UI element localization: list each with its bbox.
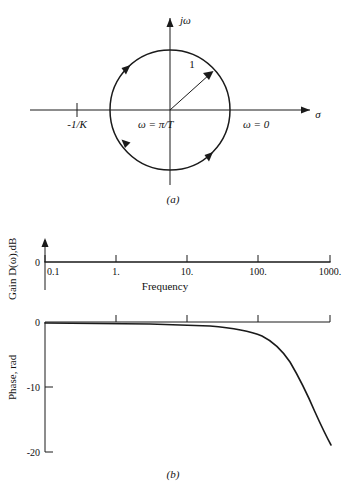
gain-xtick-label-4: 1000.: [319, 266, 342, 277]
gain-ylabel: Gain D(ω),dB: [6, 238, 19, 300]
circle-arrow-lower-right: [205, 152, 214, 162]
caption-b: (b): [167, 468, 180, 481]
phase-plot-group: 0 -10 -20 Phase, rad (b): [6, 315, 331, 481]
radius-label: 1: [189, 58, 195, 70]
phase-curve: [45, 323, 331, 445]
phase-ytick-label-2: -20: [27, 447, 40, 458]
gain-y-axis-arrowhead: [42, 238, 49, 247]
imag-axis-arrowhead: [167, 18, 174, 27]
figure-page: 1 jω σ -1/K ω = π/T ω = 0 (a) 0 0.: [0, 0, 346, 491]
gain-xtick-label-1: 1.: [112, 266, 120, 277]
radius-vector-line: [170, 74, 210, 110]
real-axis-label: σ: [315, 108, 321, 120]
omega-zero-label: ω = 0: [243, 118, 270, 130]
phase-ylabel: Phase, rad: [6, 354, 18, 400]
caption-a: (a): [167, 193, 180, 206]
gain-xtick-label-3: 100.: [249, 266, 267, 277]
gain-xtick-label-2: 10.: [181, 266, 194, 277]
figure-canvas: 1 jω σ -1/K ω = π/T ω = 0 (a) 0 0.: [0, 0, 346, 491]
phase-ytick-label-0: 0: [35, 317, 40, 328]
phase-ytick-label-1: -10: [27, 382, 40, 393]
omega-pi-over-t-label: ω = π/T: [138, 118, 174, 130]
panel-a-group: 1 jω σ -1/K ω = π/T ω = 0 (a): [30, 14, 321, 206]
real-axis-arrowhead: [301, 107, 310, 114]
gain-plot-group: 0 0.1 1. 10. 100. 1000. Frequency Gain D…: [6, 238, 341, 300]
gain-xtick-label-0: 0.1: [47, 266, 60, 277]
imag-axis-label: jω: [178, 14, 191, 26]
gain-xlabel: Frequency: [142, 280, 189, 292]
minus-one-over-k-label: -1/K: [67, 118, 87, 130]
gain-ytick-label-0: 0: [35, 257, 40, 268]
